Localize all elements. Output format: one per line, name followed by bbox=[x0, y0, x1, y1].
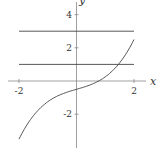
x-tick-label: -2 bbox=[15, 86, 24, 96]
chart: -2242-2xy bbox=[0, 0, 158, 149]
y-tick-label: 4 bbox=[66, 10, 72, 20]
x-axis-label: x bbox=[150, 75, 157, 88]
y-axis-label: y bbox=[78, 0, 86, 7]
y-tick-label: 2 bbox=[66, 43, 72, 53]
x-tick-label: 2 bbox=[131, 86, 137, 96]
y-tick-label: -2 bbox=[63, 109, 72, 119]
plot-area: -2242-2xy bbox=[0, 0, 158, 149]
